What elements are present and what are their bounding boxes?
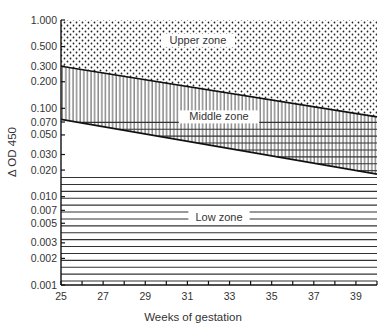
x-tick-label: 35 bbox=[266, 290, 278, 302]
upper-zone-label: Upper zone bbox=[169, 34, 226, 46]
y-tick-label: 1.000 bbox=[31, 14, 57, 26]
y-axis-title: Δ OD 450 bbox=[6, 127, 18, 177]
y-tick-label: 0.070 bbox=[31, 116, 57, 128]
plot-area bbox=[61, 20, 377, 281]
x-tick-label: 27 bbox=[97, 290, 109, 302]
y-tick-label: 0.003 bbox=[31, 236, 57, 248]
middle-zone-label: Middle zone bbox=[189, 110, 248, 122]
y-tick-label: 0.010 bbox=[31, 190, 57, 202]
x-tick-label: 39 bbox=[350, 290, 362, 302]
y-tick-label: 0.020 bbox=[31, 164, 57, 176]
liley-chart: 1.0000.5000.3000.2000.1000.0700.0500.030… bbox=[0, 0, 391, 334]
low-zone-label: Low zone bbox=[195, 211, 242, 223]
x-tick-label: 29 bbox=[139, 290, 151, 302]
y-tick-label: 0.200 bbox=[31, 75, 57, 87]
y-tick-label: 0.007 bbox=[31, 204, 57, 216]
y-tick-label: 0.050 bbox=[31, 128, 57, 140]
x-tick-label: 37 bbox=[308, 290, 320, 302]
x-tick-label: 33 bbox=[224, 290, 236, 302]
y-tick-label: 0.500 bbox=[31, 40, 57, 52]
x-tick-label: 25 bbox=[55, 290, 67, 302]
x-axis-title: Weeks of gestation bbox=[144, 311, 242, 323]
y-tick-label: 0.002 bbox=[31, 252, 57, 264]
y-tick-label: 0.300 bbox=[31, 60, 57, 72]
x-tick-label: 31 bbox=[182, 290, 194, 302]
y-tick-label: 0.030 bbox=[31, 148, 57, 160]
y-tick-label: 0.005 bbox=[31, 217, 57, 229]
y-tick-label: 0.001 bbox=[31, 279, 57, 291]
y-tick-label: 0.100 bbox=[31, 102, 57, 114]
